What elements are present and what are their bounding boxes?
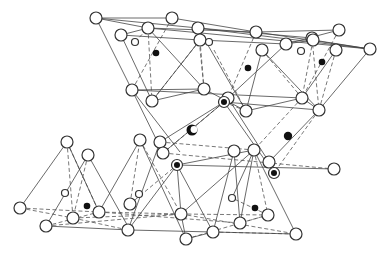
open-atom-icon bbox=[228, 145, 240, 157]
open-atom-icon bbox=[122, 224, 134, 236]
small-atom-icon bbox=[136, 191, 143, 198]
open-atom-icon bbox=[328, 163, 340, 175]
filled-dot-icon bbox=[252, 205, 259, 212]
solid-bond bbox=[128, 142, 160, 230]
open-atom-icon bbox=[330, 44, 342, 56]
solid-bond bbox=[177, 150, 254, 165]
open-atom-icon bbox=[194, 34, 206, 46]
dashed-bond bbox=[312, 38, 319, 110]
dashed-bond bbox=[181, 214, 268, 215]
filled-dot-icon bbox=[284, 132, 292, 140]
open-atom-icon bbox=[234, 217, 246, 229]
open-atom-icon bbox=[126, 84, 138, 96]
solid-bond bbox=[213, 151, 234, 232]
open-atom-icon bbox=[40, 220, 52, 232]
open-atom-icon bbox=[364, 43, 376, 55]
open-atom-icon bbox=[166, 12, 178, 24]
open-atom-icon bbox=[290, 228, 302, 240]
dashed-bond bbox=[254, 98, 302, 150]
filled-dot-icon bbox=[84, 203, 91, 210]
small-atom-icon bbox=[298, 48, 305, 55]
small-cation-atoms bbox=[62, 39, 305, 202]
filled-dot-icon bbox=[153, 50, 160, 57]
crescent-light-icon bbox=[191, 126, 198, 133]
open-atom-icon bbox=[307, 34, 319, 46]
solid-bond bbox=[20, 142, 67, 208]
crystal-structure-diagram bbox=[0, 0, 384, 253]
open-atom-icon bbox=[90, 12, 102, 24]
dashed-bond bbox=[130, 165, 177, 204]
open-atom-icon bbox=[142, 22, 154, 34]
solid-bond bbox=[269, 110, 319, 162]
ringed-site-core-icon bbox=[174, 162, 180, 168]
dashed-bond bbox=[274, 110, 319, 173]
open-atom-icon bbox=[82, 149, 94, 161]
solid-bond bbox=[319, 49, 370, 110]
filled-dot-icon bbox=[319, 59, 326, 66]
open-atom-icon bbox=[296, 92, 308, 104]
solid-bond bbox=[256, 30, 339, 32]
open-atom-icon bbox=[263, 156, 275, 168]
open-atom-icon bbox=[192, 22, 204, 34]
solid-bond bbox=[132, 89, 204, 90]
dashed-bond bbox=[200, 40, 204, 89]
open-atom-icon bbox=[67, 212, 79, 224]
open-atom-icon bbox=[180, 233, 192, 245]
open-atom-icon bbox=[250, 26, 262, 38]
open-atom-icon bbox=[262, 209, 274, 221]
solid-bond bbox=[160, 102, 224, 142]
open-atom-icon bbox=[61, 136, 73, 148]
small-atom-icon bbox=[62, 190, 69, 197]
solid-bond bbox=[246, 50, 262, 111]
open-atom-icon bbox=[146, 95, 158, 107]
open-atom-icon bbox=[14, 202, 26, 214]
open-atom-icon bbox=[256, 44, 268, 56]
solid-bond bbox=[130, 230, 213, 232]
solid-bond bbox=[128, 165, 177, 230]
dashed-bond bbox=[99, 212, 240, 223]
dashed-bond bbox=[262, 50, 302, 98]
solid-bond bbox=[88, 155, 130, 230]
small-atom-icon bbox=[229, 195, 236, 202]
solid-bond bbox=[96, 18, 132, 90]
solid-bond bbox=[181, 150, 254, 214]
small-atom-icon bbox=[206, 39, 213, 46]
structure-svg bbox=[0, 0, 384, 253]
small-atom-icon bbox=[132, 39, 139, 46]
open-atom-icon bbox=[198, 83, 210, 95]
solid-bond bbox=[213, 232, 296, 234]
open-atom-icon bbox=[154, 136, 166, 148]
open-atom-icon bbox=[248, 144, 260, 156]
filled-dot-icon bbox=[245, 65, 252, 72]
open-atom-icon bbox=[240, 105, 252, 117]
open-atom-icon bbox=[207, 226, 219, 238]
open-atom-icon bbox=[157, 147, 169, 159]
open-atom-icon bbox=[175, 208, 187, 220]
crescent-site bbox=[187, 125, 198, 136]
solid-bond bbox=[302, 50, 336, 98]
solid-bond bbox=[96, 18, 148, 28]
open-atom-icon bbox=[333, 24, 345, 36]
ringed-site-core-icon bbox=[221, 99, 227, 105]
open-atom-icon bbox=[134, 134, 146, 146]
filled-site-dots bbox=[84, 50, 326, 212]
open-atom-icon bbox=[280, 38, 292, 50]
dashed-bond bbox=[46, 214, 181, 226]
solid-bond bbox=[177, 165, 181, 214]
open-atom-icon bbox=[313, 104, 325, 116]
open-atom-icon bbox=[93, 206, 105, 218]
dashed-bonds bbox=[20, 18, 339, 239]
ringed-site-core-icon bbox=[271, 170, 277, 176]
solid-bond bbox=[177, 165, 334, 169]
open-atom-icon bbox=[115, 29, 127, 41]
open-atom-icon bbox=[124, 198, 136, 210]
